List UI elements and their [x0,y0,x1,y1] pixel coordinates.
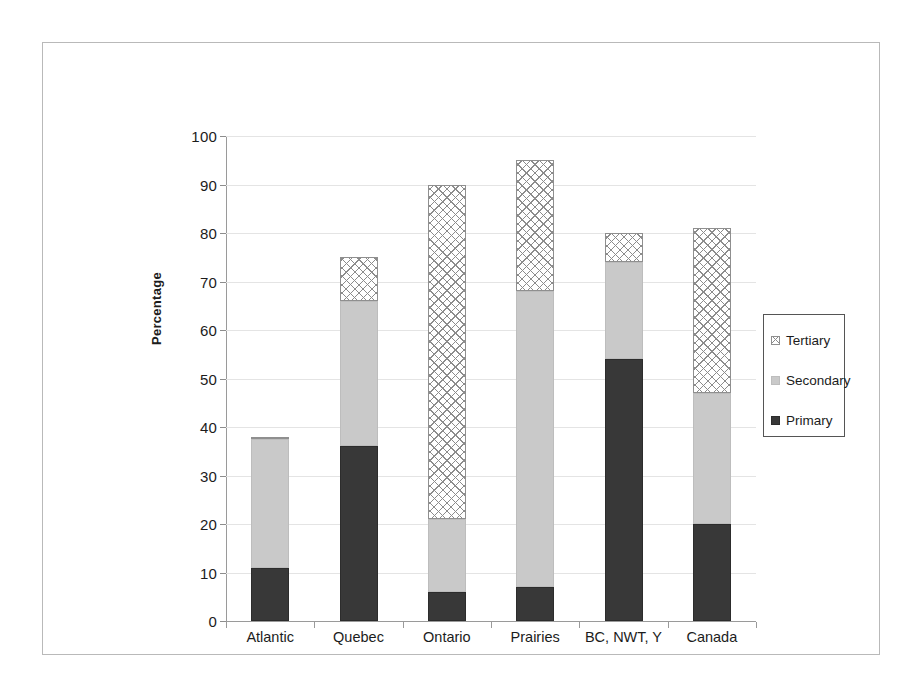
gridline-90 [226,185,756,186]
y-tick-mark-50 [220,379,226,380]
light-gray-swatch [771,376,780,385]
bar-group[interactable] [251,437,289,621]
figure-frame: Percentage 0102030405060708090100 Atlant… [42,42,880,655]
bar-segment-tertiary[interactable] [605,233,643,262]
gridline-50 [226,379,756,380]
legend-item-secondary[interactable]: Secondary [771,373,851,388]
gridline-70 [226,282,756,283]
dark-swatch [771,416,780,425]
bar-segment-secondary[interactable] [693,393,731,524]
bar-group[interactable] [693,228,731,621]
y-tick-label-100: 100 [173,128,217,145]
y-tick-label-20: 20 [173,516,217,533]
bar-segment-primary[interactable] [428,592,466,621]
y-tick-mark-20 [220,524,226,525]
y-tick-mark-80 [220,233,226,234]
bar-segment-secondary[interactable] [428,519,466,592]
y-tick-mark-10 [220,573,226,574]
y-tick-label-10: 10 [173,564,217,581]
bar-group[interactable] [516,160,554,621]
y-tick-mark-40 [220,427,226,428]
y-tick-label-90: 90 [173,176,217,193]
y-tick-label-50: 50 [173,370,217,387]
legend-label: Secondary [786,373,851,388]
bar-segment-primary[interactable] [605,359,643,621]
x-tick-mark [403,622,404,628]
y-tick-label-30: 30 [173,467,217,484]
bar-group[interactable] [605,233,643,621]
bar-segment-secondary[interactable] [516,291,554,587]
gridline-40 [226,427,756,428]
y-tick-label-70: 70 [173,273,217,290]
y-tick-mark-70 [220,282,226,283]
y-tick-label-0: 0 [173,613,217,630]
gridline-80 [226,233,756,234]
x-tick-mark [491,622,492,628]
bar-segment-tertiary[interactable] [693,228,731,393]
legend-item-tertiary[interactable]: Tertiary [771,333,830,348]
gridline-60 [226,330,756,331]
bar-segment-secondary[interactable] [605,262,643,359]
gridline-100 [226,136,756,137]
x-tick-mark [668,622,669,628]
bar-segment-tertiary[interactable] [251,437,289,439]
y-tick-mark-100 [220,136,226,137]
chart-legend: TertiarySecondaryPrimary [763,314,845,437]
x-tick-mark [314,622,315,628]
bar-segment-secondary[interactable] [340,301,378,447]
bar-segment-secondary[interactable] [251,439,289,568]
y-axis-tick-labels: 0102030405060708090100 [165,136,217,621]
y-tick-mark-90 [220,185,226,186]
bar-segment-tertiary[interactable] [428,185,466,520]
legend-label: Tertiary [786,333,830,348]
bar-segment-primary[interactable] [251,568,289,621]
gridline-30 [226,476,756,477]
y-tick-label-80: 80 [173,225,217,242]
plot-area [226,136,756,621]
y-tick-label-40: 40 [173,419,217,436]
bar-segment-primary[interactable] [340,446,378,621]
legend-item-primary[interactable]: Primary [771,413,833,428]
bar-segment-primary[interactable] [693,524,731,621]
bar-segment-primary[interactable] [516,587,554,621]
x-axis-tick-labels: AtlanticQuebecOntarioPrairiesBC, NWT, YC… [226,629,756,659]
y-tick-mark-30 [220,476,226,477]
x-tick-mark [226,622,227,628]
x-tick-mark [579,622,580,628]
bar-group[interactable] [428,185,466,622]
x-tick-label: Canada [652,629,772,645]
y-tick-mark-60 [220,330,226,331]
x-tick-mark [756,622,757,628]
legend-label: Primary [786,413,833,428]
bar-segment-tertiary[interactable] [340,257,378,301]
gridline-20 [226,524,756,525]
y-axis-title: Percentage [149,229,164,389]
bar-segment-tertiary[interactable] [516,160,554,291]
gridline-10 [226,573,756,574]
crosshatch-swatch [771,336,780,345]
y-tick-label-60: 60 [173,322,217,339]
bar-group[interactable] [340,257,378,621]
